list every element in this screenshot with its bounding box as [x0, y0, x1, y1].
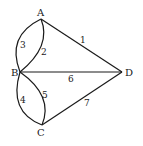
edge-1: [41, 19, 122, 72]
edge-1-label: 1: [80, 35, 86, 45]
edge-5-label: 5: [42, 90, 48, 100]
node-d-label: D: [125, 67, 133, 78]
node-a-label: A: [36, 7, 45, 18]
edge-7: [42, 72, 122, 125]
edge-2-label: 2: [41, 47, 47, 57]
edge-4-label: 4: [20, 95, 26, 105]
edge-7-label: 7: [84, 98, 90, 108]
edge-3-label: 3: [20, 40, 26, 50]
node-c-label: C: [37, 127, 45, 138]
node-b-label: B: [11, 67, 18, 78]
edge-6-label: 6: [68, 74, 74, 84]
graph-diagram: A B C D 1 2 3 4 5 6 7: [0, 0, 143, 146]
